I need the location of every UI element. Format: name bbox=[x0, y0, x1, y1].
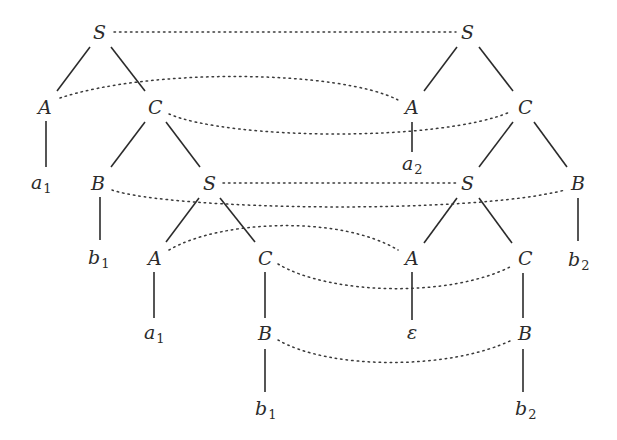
node-label: S bbox=[461, 21, 474, 43]
node-label: B bbox=[570, 172, 585, 194]
node-label: S bbox=[93, 21, 106, 43]
node-label: B bbox=[257, 322, 272, 344]
node-label: A bbox=[36, 96, 52, 118]
node-label: C bbox=[518, 96, 533, 118]
node-label: A bbox=[403, 96, 419, 118]
node-label: a1 bbox=[31, 171, 52, 196]
node-label: a1 bbox=[144, 321, 165, 346]
node-label: C bbox=[518, 247, 533, 269]
derivation-trees-diagram: S A C a1 B S b1 A C a1 B b1 S A C a2 S B… bbox=[0, 0, 617, 440]
node-label: B bbox=[517, 322, 532, 344]
node-label: C bbox=[258, 247, 273, 269]
node-label: S bbox=[461, 172, 474, 194]
node-label: A bbox=[403, 247, 419, 269]
node-label: A bbox=[146, 247, 162, 269]
node-label: ε bbox=[407, 321, 417, 343]
node-label: a2 bbox=[402, 152, 423, 177]
node-label: S bbox=[203, 172, 216, 194]
correspondence-links bbox=[60, 32, 565, 363]
node-label: B bbox=[90, 172, 105, 194]
node-label: b2 bbox=[515, 397, 536, 422]
node-label: b1 bbox=[255, 397, 276, 422]
node-label: b1 bbox=[88, 246, 109, 271]
node-label: C bbox=[148, 96, 163, 118]
right-tree-edges bbox=[412, 47, 578, 392]
node-label: b2 bbox=[568, 248, 589, 273]
